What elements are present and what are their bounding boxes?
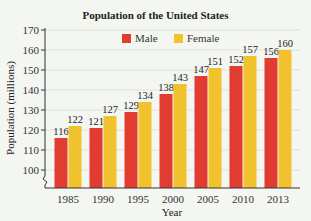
bar-value-label: 151 [207,56,223,67]
bar-female [279,50,292,188]
bar-female [69,126,82,188]
bar-value-label: 152 [228,54,244,65]
x-tick-label: 2013 [267,193,290,205]
bar-male [265,58,278,188]
bar-female [104,116,117,188]
axis-break-icon [43,176,47,188]
legend-swatch-male [122,34,131,43]
x-tick-label: 1990 [92,193,115,205]
bar-value-label: 160 [277,38,293,49]
bar-male [230,66,243,188]
x-tick-label: 2010 [232,193,255,205]
bar-male [90,128,103,188]
y-tick-label: 130 [23,104,40,116]
bar-value-label: 129 [123,100,139,111]
bar-female [174,84,187,188]
bars: 1161221211271291341381431471511521571561… [53,38,293,188]
bar-female [139,102,152,188]
legend: MaleFemale [122,32,219,44]
y-tick-label: 170 [23,24,40,36]
x-axis-title: Year [162,206,183,218]
bar-male [55,138,68,188]
y-tick-label: 160 [23,44,40,56]
y-tick-label: 110 [23,144,40,156]
legend-label-female: Female [187,32,219,44]
x-tick-label: 1985 [57,193,80,205]
bar-male [125,112,138,188]
y-axis-title: Population (millions) [4,61,17,155]
x-tick-label: 2000 [162,193,185,205]
bar-value-label: 116 [53,126,68,137]
y-tick-label: 120 [23,124,40,136]
legend-swatch-female [174,34,183,43]
bar-female [209,68,222,188]
x-tick-label: 1995 [127,193,150,205]
y-tick-label: 140 [23,84,40,96]
bar-male [195,76,208,188]
y-tick-label: 150 [23,64,40,76]
bar-female [244,56,257,188]
legend-label-male: Male [135,32,158,44]
bar-value-label: 127 [102,104,118,115]
bar-value-label: 122 [67,114,83,125]
bar-value-label: 121 [88,116,104,127]
bar-value-label: 157 [242,44,258,55]
bar-chart: 1161221211271291341381431471511521571561… [0,0,311,221]
y-tick-label: 100 [23,164,40,176]
bar-value-label: 134 [137,90,154,101]
x-tick-label: 2005 [197,193,220,205]
bar-value-label: 138 [158,82,174,93]
bar-male [160,94,173,188]
bar-value-label: 143 [172,72,188,83]
